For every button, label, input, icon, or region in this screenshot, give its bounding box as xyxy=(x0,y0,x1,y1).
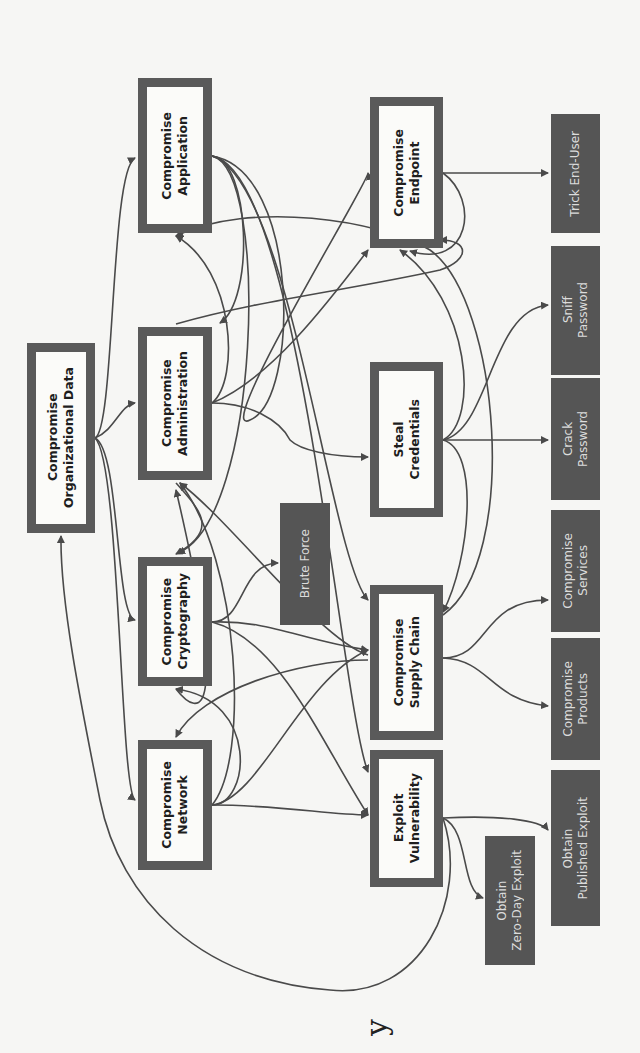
edge-org-network xyxy=(95,438,135,800)
node-compromise-application: Compromise Application xyxy=(138,78,212,233)
attack-tree-diagram: Compromise Organizational Data Compromis… xyxy=(0,0,640,1053)
node-label: Compromise Administration xyxy=(159,351,190,456)
node-label: Compromise Application xyxy=(159,112,190,200)
node-steal-credentials: Steal Credentials xyxy=(370,362,443,517)
node-exploit-vulnerability: Exploit Vulnerability xyxy=(370,750,443,887)
leaf-crack-password: Crack Password xyxy=(551,378,600,500)
edge-app-vuln xyxy=(212,156,368,772)
leaf-brute-force: Brute Force xyxy=(280,503,330,625)
leaf-compromise-services: Compromise Services xyxy=(551,510,600,632)
leaf-compromise-products: Compromise Products xyxy=(551,638,600,760)
stray-page-text: y xyxy=(359,1019,394,1036)
leaf-sniff-password: Sniff Password xyxy=(551,246,600,375)
node-compromise-network: Compromise Network xyxy=(138,740,212,870)
edge-vuln-published xyxy=(443,817,548,830)
leaf-label: Obtain Published Exploit xyxy=(561,797,591,900)
leaf-label: Crack Password xyxy=(561,411,591,467)
edge-network-vuln xyxy=(212,805,368,815)
edge-org-admin xyxy=(95,403,135,438)
node-compromise-organizational-data: Compromise Organizational Data xyxy=(27,343,95,533)
leaf-label: Brute Force xyxy=(298,529,313,598)
edge-supply-services xyxy=(443,600,548,658)
node-compromise-administration: Compromise Administration xyxy=(138,327,212,480)
node-compromise-supply-chain: Compromise Supply Chain xyxy=(370,585,443,740)
node-label: Compromise Network xyxy=(159,761,190,849)
edge-admin-crypto xyxy=(176,483,202,554)
edge-org-crypto xyxy=(95,438,135,620)
node-compromise-cryptography: Compromise Cryptography xyxy=(138,557,212,686)
leaf-obtain-published-exploit: Obtain Published Exploit xyxy=(551,770,600,926)
edge-supply-app xyxy=(176,217,492,615)
node-label: Exploit Vulnerability xyxy=(391,773,422,863)
edge-creds-supply xyxy=(443,440,467,612)
edge-app-admin xyxy=(212,156,244,323)
node-label: Compromise Cryptography xyxy=(159,573,190,670)
leaf-trick-end-user: Trick End-User xyxy=(551,114,600,233)
edge-crypto-supply xyxy=(212,622,368,650)
leaf-obtain-zero-day-exploit: Obtain Zero-Day Exploit xyxy=(485,836,535,965)
leaf-label: Sniff Password xyxy=(561,282,591,338)
edge-supply-products xyxy=(443,658,548,706)
node-label: Compromise Organizational Data xyxy=(45,367,76,508)
edge-org-app xyxy=(95,158,135,438)
node-label: Steal Credentials xyxy=(391,399,422,480)
node-compromise-endpoint: Compromise Endpoint xyxy=(370,97,443,248)
leaf-label: Trick End-User xyxy=(568,131,583,217)
node-label: Compromise Endpoint xyxy=(391,129,422,217)
leaf-label: Compromise Services xyxy=(561,533,591,609)
edge-admin-creds xyxy=(212,403,368,457)
edge-network-supply xyxy=(212,650,368,805)
leaf-label: Obtain Zero-Day Exploit xyxy=(495,850,525,951)
edge-crypto-brute xyxy=(212,563,278,622)
leaf-label: Compromise Products xyxy=(561,661,591,737)
node-label: Compromise Supply Chain xyxy=(391,616,422,708)
